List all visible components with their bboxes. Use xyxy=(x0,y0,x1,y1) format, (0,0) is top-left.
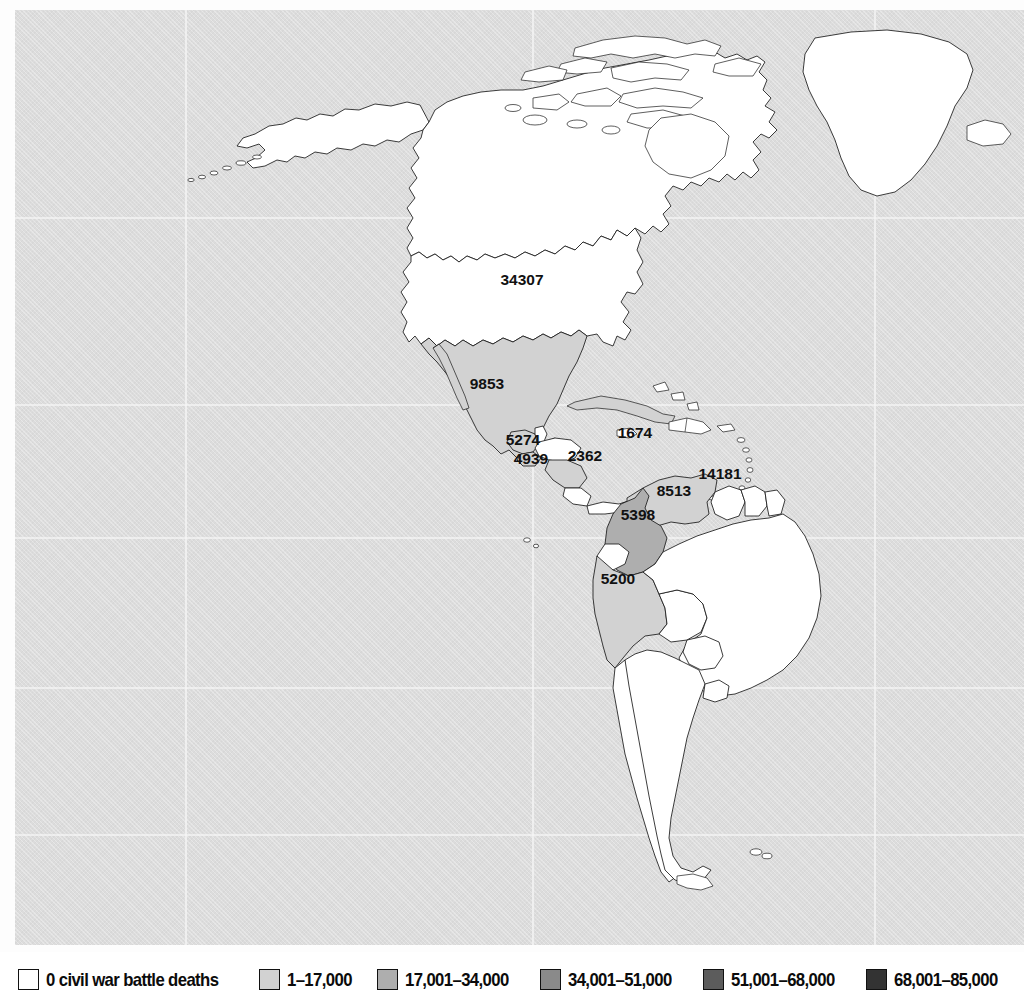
legend-swatch-1 xyxy=(259,969,280,990)
country-costa-rica xyxy=(563,488,591,506)
map-label-venezuela: 8513 xyxy=(657,482,692,499)
map-label-nicaragua: 2362 xyxy=(568,447,602,464)
map-label-mexico: 9853 xyxy=(470,375,505,392)
map-label-el-salvador: 4939 xyxy=(514,450,549,467)
map-label-usa: 34307 xyxy=(500,271,543,288)
country-alaska xyxy=(237,102,429,168)
legend-label-4: 51,001–68,000 xyxy=(731,969,835,991)
map-label-peru: 5200 xyxy=(601,570,635,587)
legend-label-5: 68,001–85,000 xyxy=(894,969,998,991)
island-bahamas-3 xyxy=(687,402,699,410)
map-figure: 34307 9853 5274 4939 2362 1674 8513 1418… xyxy=(0,0,1024,1007)
country-french-guiana xyxy=(765,490,785,516)
legend-swatch-5 xyxy=(866,969,887,990)
legend-item-5: 68,001–85,000 xyxy=(866,969,1012,991)
island-hispaniola xyxy=(669,418,711,434)
legend-item-3: 34,001–51,000 xyxy=(540,969,686,991)
legend-item-4: 51,001–68,000 xyxy=(703,969,849,991)
map-label-guatemala: 5274 xyxy=(506,431,541,448)
greenland xyxy=(803,30,973,196)
map-panel: 34307 9853 5274 4939 2362 1674 8513 1418… xyxy=(15,10,1024,945)
legend-label-2: 17,001–34,000 xyxy=(405,969,509,991)
legend-label-1: 1–17,000 xyxy=(287,969,352,991)
tierra-del-fuego xyxy=(677,874,713,890)
aleutian-islands xyxy=(188,155,262,182)
iceland xyxy=(967,120,1011,146)
south-america-landmass xyxy=(524,474,821,890)
north-america-landmass xyxy=(188,30,1011,514)
island-puerto-rico xyxy=(717,424,735,432)
map-legend: 0 civil war battle deaths 1–17,000 17,00… xyxy=(0,952,1024,1007)
country-uruguay xyxy=(703,680,729,702)
falkland-islands xyxy=(750,849,772,859)
country-nicaragua xyxy=(545,460,587,488)
legend-swatch-3 xyxy=(540,969,561,990)
map-label-colombia: 5398 xyxy=(621,506,656,523)
legend-label-3: 34,001–51,000 xyxy=(568,969,672,991)
legend-swatch-4 xyxy=(703,969,724,990)
legend-swatch-0 xyxy=(18,969,39,990)
legend-item-1: 1–17,000 xyxy=(259,969,361,991)
map-canvas: 34307 9853 5274 4939 2362 1674 8513 1418… xyxy=(15,10,1024,945)
galapagos-islands xyxy=(524,538,539,548)
legend-item-0: 0 civil war battle deaths xyxy=(18,969,242,991)
country-guyana xyxy=(711,486,745,520)
map-label-cuba: 1674 xyxy=(618,424,653,441)
country-suriname xyxy=(741,486,767,516)
map-label-trinidad: 14181 xyxy=(698,465,741,482)
island-cuba xyxy=(567,396,675,424)
island-bahamas-1 xyxy=(653,382,669,392)
legend-item-2: 17,001–34,000 xyxy=(377,969,523,991)
legend-label-0: 0 civil war battle deaths xyxy=(46,969,218,991)
legend-swatch-2 xyxy=(377,969,398,990)
island-bahamas-2 xyxy=(671,392,685,400)
